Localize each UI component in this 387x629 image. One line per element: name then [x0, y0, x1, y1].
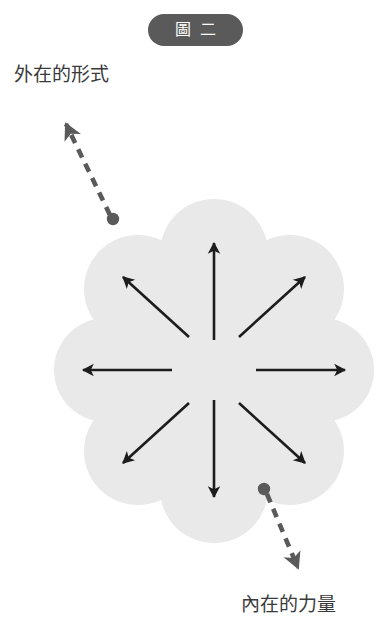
- outer-form-anchor-dot: [107, 213, 119, 225]
- outer-form-leader-line: [66, 124, 110, 215]
- inner-power-leader-line: [267, 494, 298, 568]
- label-outer-form: 外在的形式: [14, 64, 109, 85]
- label-inner-power: 內在的力量: [241, 594, 336, 615]
- diagram-canvas: 圖 二: [0, 0, 387, 629]
- diagram-illustration: [0, 0, 387, 629]
- inner-power-anchor-dot: [258, 483, 270, 495]
- outer-form-leader-group: [66, 124, 119, 225]
